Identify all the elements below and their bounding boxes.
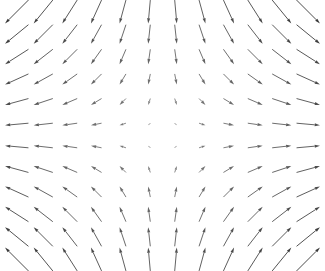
quiver-plot-figure	[0, 0, 325, 271]
quiver-field-svg	[0, 0, 325, 271]
plot-background	[0, 0, 325, 271]
